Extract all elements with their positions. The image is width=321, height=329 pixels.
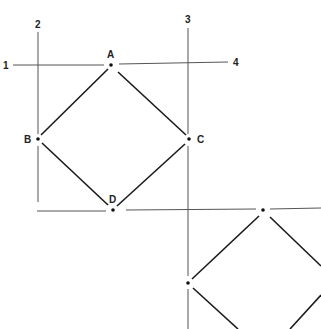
vertex-b bbox=[36, 137, 40, 141]
square-edge bbox=[117, 144, 185, 206]
vertex-c bbox=[187, 137, 191, 141]
geometry-diagram: ABCD 1234 bbox=[0, 0, 321, 329]
line-label-4: 4 bbox=[233, 57, 239, 68]
second-square-edge bbox=[270, 217, 321, 266]
square-edge bbox=[41, 69, 108, 135]
second-square-edge bbox=[193, 288, 238, 329]
guide-line-bottom-right-2 bbox=[270, 208, 321, 209]
guide-line-1b bbox=[119, 62, 228, 64]
line-label-2: 2 bbox=[35, 19, 41, 30]
vertex-label-d: D bbox=[109, 194, 116, 205]
second-square-edges bbox=[192, 216, 321, 329]
square-edges bbox=[41, 69, 186, 206]
vertex-a bbox=[109, 63, 113, 67]
line-label-1: 1 bbox=[3, 60, 9, 71]
square-edge bbox=[42, 143, 108, 205]
second-square-edge bbox=[192, 216, 259, 279]
vertex-label-a: A bbox=[107, 49, 114, 60]
guide-lines bbox=[13, 28, 321, 329]
vertex-label-c: C bbox=[197, 134, 204, 145]
line-label-3: 3 bbox=[185, 14, 191, 25]
vertex-points: ABCD bbox=[24, 49, 265, 285]
second-square-edge bbox=[290, 295, 321, 329]
second-vertex bbox=[261, 208, 265, 212]
vertex-label-b: B bbox=[24, 134, 31, 145]
guide-line-bottom-right bbox=[126, 209, 256, 210]
square-edge bbox=[118, 72, 186, 135]
vertex-d bbox=[111, 208, 115, 212]
second-vertex bbox=[186, 281, 190, 285]
